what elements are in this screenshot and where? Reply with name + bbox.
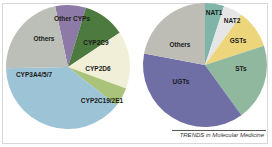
slice-label: Other CYPs bbox=[54, 15, 91, 22]
slice-label: CYP2C9 bbox=[83, 39, 109, 46]
slice-label: CYP2C19/2E1 bbox=[81, 97, 124, 104]
pie-chart-phase2: NAT1NAT2GSTsSTsUGTsOthers bbox=[143, 3, 267, 127]
source-caption: TRENDS in Molecular Medicine bbox=[180, 132, 264, 138]
slice-label: Others bbox=[34, 35, 55, 42]
pie-charts: Other CYPsCYP2C9CYP2D6CYP2C19/2E1CYP3A4/… bbox=[0, 0, 272, 147]
slice-label: UGTs bbox=[173, 78, 190, 85]
pie-chart-cyp: Other CYPsCYP2C9CYP2D6CYP2C19/2E1CYP3A4/… bbox=[6, 5, 130, 129]
slice-label: NAT2 bbox=[224, 17, 241, 24]
slice-label: STs bbox=[235, 65, 247, 72]
caption-rule bbox=[172, 130, 266, 131]
slice-label: CYP2D6 bbox=[85, 65, 111, 72]
slice-label: Others bbox=[170, 41, 191, 48]
slice-label: NAT1 bbox=[206, 9, 223, 16]
slice-label: CYP3A4/5/7 bbox=[16, 71, 53, 78]
slice-label: GSTs bbox=[230, 37, 247, 44]
